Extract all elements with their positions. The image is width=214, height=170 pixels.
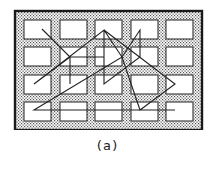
grid-cell: [24, 20, 51, 39]
grid-cell: [166, 102, 193, 121]
grid-cell: [131, 20, 158, 39]
grid-cell: [95, 75, 122, 94]
grid-cell: [166, 47, 193, 66]
grid-cell: [60, 20, 87, 39]
grid-cell: [131, 47, 158, 66]
grid-cell: [166, 75, 193, 94]
grid-cell: [60, 102, 87, 121]
grid-cell: [24, 75, 51, 94]
grid-cell: [24, 102, 51, 121]
grid-cell: [24, 47, 51, 66]
figure-caption: (a): [0, 138, 214, 153]
grid-cell: [166, 20, 193, 39]
grid-cell: [95, 102, 122, 121]
grid-cell: [131, 75, 158, 94]
partition-diagram: [0, 0, 214, 130]
grid-cell: [60, 75, 87, 94]
grid-cell: [131, 102, 158, 121]
